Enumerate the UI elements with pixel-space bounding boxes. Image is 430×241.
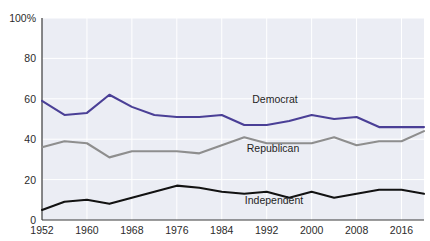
x-axis-tick-label: 2016 xyxy=(390,224,414,236)
chart-title xyxy=(0,0,430,6)
series-label-independent: Independent xyxy=(245,194,303,206)
x-axis-tick-labels: 195219601968197619841992200020082016 xyxy=(30,224,413,236)
x-axis-tick-label: 2008 xyxy=(345,224,369,236)
series-label-republican: Republican xyxy=(247,142,300,154)
y-axis-tick-label: 80 xyxy=(24,52,36,64)
y-axis-tick-label: 40 xyxy=(24,133,36,145)
x-axis-tick-label: 1976 xyxy=(165,224,189,236)
x-axis-tick-label: 1960 xyxy=(75,224,99,236)
x-axis-tick-label: 1992 xyxy=(255,224,279,236)
x-axis-tick-label: 1968 xyxy=(120,224,144,236)
y-axis-tick-label: 20 xyxy=(24,174,36,186)
party-identification-line-chart: 020406080100% 19521960196819761984199220… xyxy=(0,0,430,241)
x-axis-tick-label: 1952 xyxy=(30,224,54,236)
x-axis-tick-label: 2000 xyxy=(300,224,324,236)
y-axis-tick-label: 60 xyxy=(24,93,36,105)
series-label-democrat: Democrat xyxy=(252,93,298,105)
y-axis-tick-label: 100% xyxy=(9,12,36,24)
x-axis-tick-label: 1984 xyxy=(210,224,234,236)
chart-canvas: 020406080100% 19521960196819761984199220… xyxy=(0,0,430,241)
y-axis-tick-labels: 020406080100% xyxy=(9,12,36,226)
